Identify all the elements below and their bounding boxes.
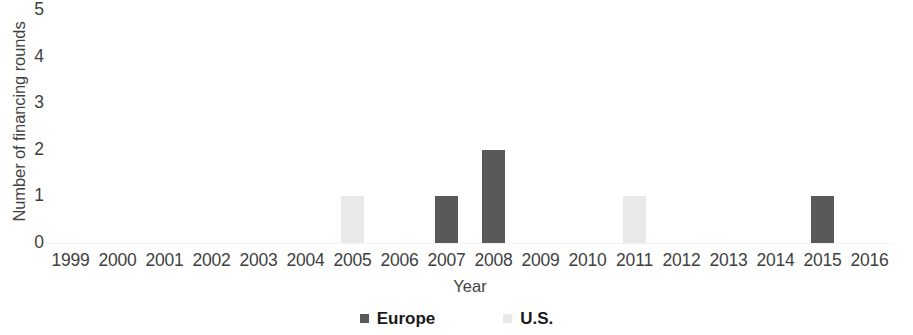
y-axis-tick-1: 1: [22, 188, 44, 206]
x-axis-tick-2006: 2006: [376, 247, 423, 273]
x-axis-tick-labels: 1999200020012002200320042005200620072008…: [47, 247, 893, 273]
legend-item-europe[interactable]: Europe: [360, 310, 436, 327]
plot-area: [47, 10, 893, 243]
bar-europe-2008: [482, 150, 505, 243]
chart-legend: EuropeU.S.: [0, 305, 913, 331]
x-axis-tick-2014: 2014: [752, 247, 799, 273]
legend-label: U.S.: [520, 310, 553, 327]
x-axis-tick-2013: 2013: [705, 247, 752, 273]
bar-chart: Number of financing rounds 012345 199920…: [0, 0, 913, 335]
x-axis-title: Year: [47, 277, 893, 296]
x-axis-tick-2015: 2015: [799, 247, 846, 273]
x-axis-line: [47, 243, 893, 244]
bar-europe-2007: [435, 196, 458, 243]
y-axis-tick-5: 5: [22, 1, 44, 19]
bar-us-2011: [623, 196, 646, 243]
y-axis-tick-3: 3: [22, 94, 44, 112]
x-axis-tick-2016: 2016: [846, 247, 893, 273]
legend-swatch-europe-icon: [360, 314, 369, 323]
x-axis-tick-2002: 2002: [188, 247, 235, 273]
legend-label: Europe: [377, 310, 436, 327]
bar-us-2005: [341, 196, 364, 243]
x-axis-tick-2010: 2010: [564, 247, 611, 273]
x-axis-tick-2003: 2003: [235, 247, 282, 273]
x-axis-tick-2012: 2012: [658, 247, 705, 273]
x-axis-tick-2007: 2007: [423, 247, 470, 273]
x-axis-tick-2005: 2005: [329, 247, 376, 273]
legend-item-us[interactable]: U.S.: [503, 310, 553, 327]
x-axis-tick-2008: 2008: [470, 247, 517, 273]
y-axis-tick-labels: 012345: [22, 0, 44, 335]
x-axis-tick-1999: 1999: [47, 247, 94, 273]
y-axis-tick-2: 2: [22, 141, 44, 159]
y-axis-tick-0: 0: [22, 234, 44, 252]
y-axis-tick-4: 4: [22, 48, 44, 66]
legend-swatch-us-icon: [503, 314, 512, 323]
x-axis-tick-2000: 2000: [94, 247, 141, 273]
x-axis-tick-2001: 2001: [141, 247, 188, 273]
bar-europe-2015: [811, 196, 834, 243]
bars-layer: [47, 10, 893, 243]
x-axis-tick-2004: 2004: [282, 247, 329, 273]
x-axis-tick-2009: 2009: [517, 247, 564, 273]
x-axis-tick-2011: 2011: [611, 247, 658, 273]
